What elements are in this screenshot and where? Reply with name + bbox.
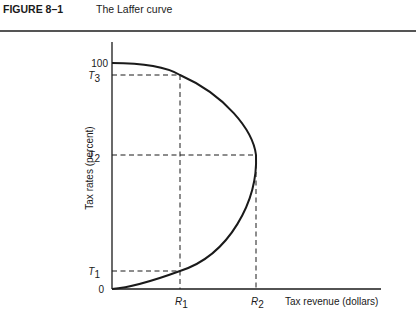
y-label-t1: T1 — [88, 266, 100, 280]
laffer-curve — [112, 63, 256, 289]
x-axis-title: Tax revenue (dollars) — [285, 296, 378, 307]
y-label-100: 100 — [91, 58, 108, 69]
laffer-chart: 100 T3 T2 T1 0 R1 R2 Tax revenue (dollar… — [0, 0, 416, 313]
x-label-r2: R2 — [251, 296, 264, 310]
y-label-0: 0 — [98, 284, 104, 295]
x-label-r1: R1 — [175, 296, 188, 310]
y-axis-title: Tax rates (percent) — [84, 126, 95, 209]
y-label-t3: T3 — [88, 70, 100, 84]
